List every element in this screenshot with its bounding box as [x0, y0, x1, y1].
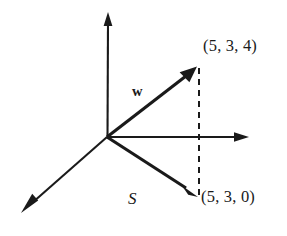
vector-w-arrow: [107, 67, 197, 138]
vector-label-s: S: [128, 190, 137, 207]
vector-s-arrow: [107, 137, 198, 197]
vector-diagram-figure: (5, 3, 4) (5, 3, 0) w S: [0, 0, 287, 236]
axis-diagonal: [21, 137, 107, 213]
axis-horizontal: [107, 132, 249, 142]
point-label-projection-coordinates: (5, 3, 0): [201, 189, 255, 206]
point-label-w-coordinates: (5, 3, 4): [203, 38, 257, 55]
axis-vertical: [104, 12, 113, 137]
vector-label-w: w: [132, 84, 142, 99]
